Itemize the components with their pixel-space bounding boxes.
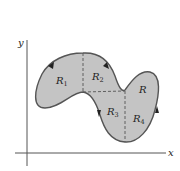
y-axis-label: y bbox=[17, 37, 24, 48]
region-diagram: y x R1 R2 R3 R4 R bbox=[0, 0, 180, 171]
x-axis-label: x bbox=[168, 147, 174, 158]
region-r bbox=[36, 53, 159, 142]
label-region-r: R bbox=[138, 84, 147, 95]
